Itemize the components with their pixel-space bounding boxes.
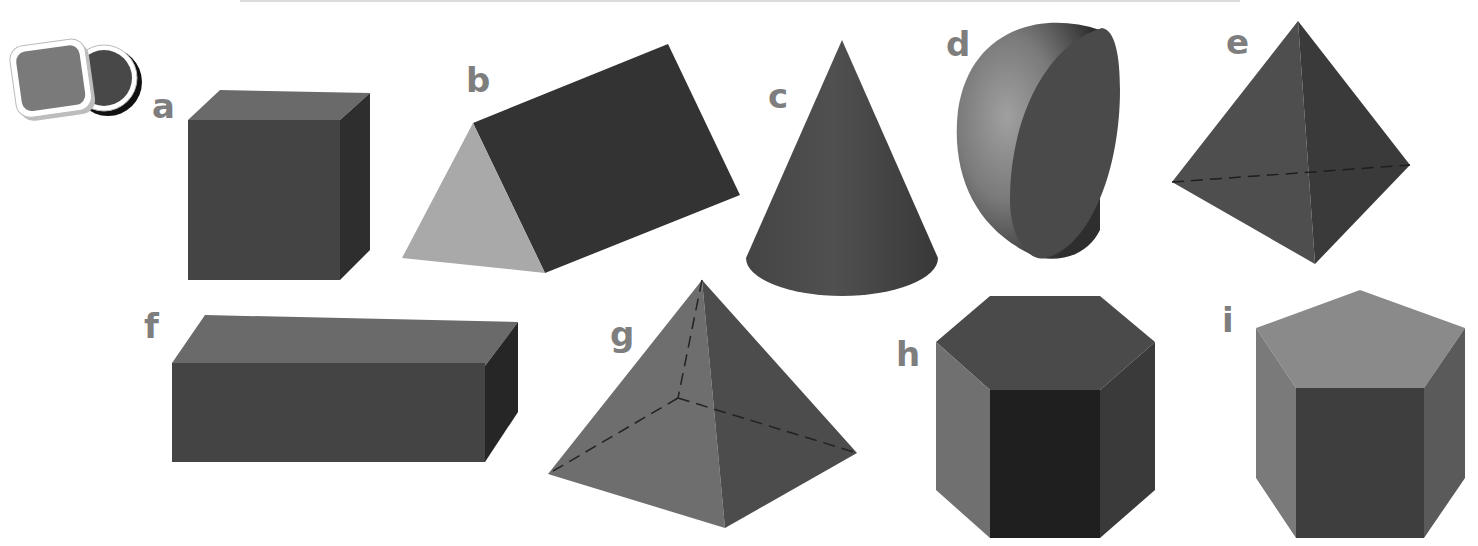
- label-c: c: [768, 76, 788, 116]
- shape-a-cube: a: [152, 86, 370, 280]
- label-a: a: [152, 86, 175, 126]
- shape-e-triangular-pyramid: e: [1172, 21, 1410, 264]
- shape-b-triangular-prism: b: [402, 44, 740, 273]
- label-e: e: [1226, 22, 1249, 62]
- shapes-icon: [8, 37, 142, 123]
- shape-d-hemisphere: d: [946, 23, 1120, 259]
- label-b: b: [466, 60, 490, 100]
- shape-i-pentagonal-prism: i: [1222, 290, 1465, 538]
- shape-h-hexagonal-prism: h: [896, 296, 1155, 538]
- shape-g-square-pyramid: g: [548, 280, 857, 528]
- shape-c-cone: c: [746, 40, 938, 296]
- label-h: h: [896, 334, 920, 374]
- solid-shapes-diagram: a b c d e f g: [0, 0, 1478, 546]
- shape-f-cuboid: f: [144, 306, 518, 462]
- label-f: f: [144, 306, 160, 346]
- label-i: i: [1222, 300, 1234, 340]
- label-d: d: [946, 24, 970, 64]
- label-g: g: [610, 314, 634, 354]
